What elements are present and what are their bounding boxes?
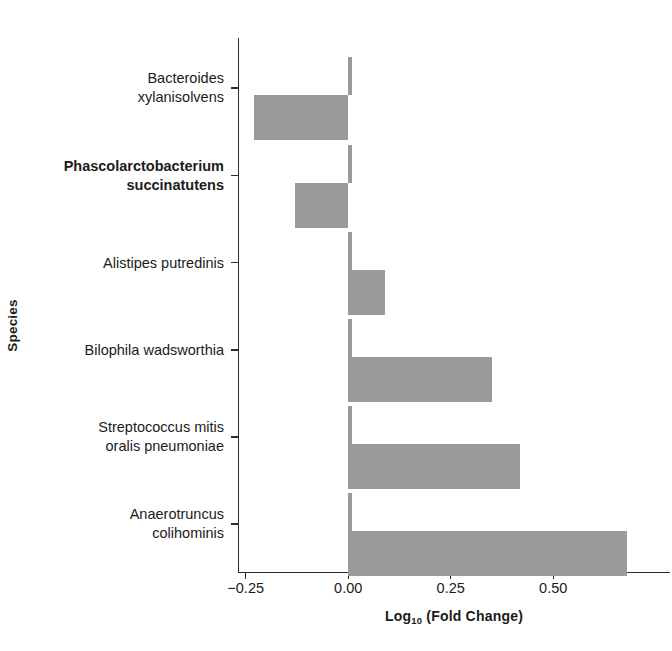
y-axis-tick	[231, 523, 238, 524]
zero-reference-mark	[348, 232, 353, 270]
zero-reference-mark	[348, 406, 353, 444]
bar[interactable]	[348, 270, 385, 315]
bar-chart-figure: Species −0.250.000.250.50Bacteroides xyl…	[0, 0, 672, 651]
zero-reference-mark	[348, 319, 353, 357]
y-axis-tick-label: Anaerotruncus colihominis	[0, 505, 224, 543]
bar[interactable]	[295, 183, 348, 228]
x-axis-title-suffix: (Fold Change)	[422, 608, 523, 624]
zero-reference-mark	[348, 57, 353, 95]
y-axis-tick-label: Phascolarctobacterium succinatutens	[0, 157, 224, 195]
y-axis-tick	[231, 175, 238, 176]
bar[interactable]	[348, 531, 627, 576]
bar[interactable]	[254, 95, 348, 140]
y-axis-tick	[231, 349, 238, 350]
x-axis-tick-label: 0.25	[411, 580, 491, 596]
y-axis-tick-label: Alistipes putredinis	[0, 253, 224, 272]
x-axis-tick	[245, 572, 246, 579]
x-axis-tick-label: 0.00	[308, 580, 388, 596]
x-axis-tick-label: −0.25	[206, 580, 286, 596]
x-axis-tick-label: 0.50	[513, 580, 593, 596]
x-axis-title-subscript: 10	[411, 615, 422, 626]
y-axis-tick	[231, 262, 238, 263]
y-axis-tick-label: Streptococcus mitis oralis pneumoniae	[0, 418, 224, 456]
bar[interactable]	[348, 444, 520, 489]
zero-reference-mark	[348, 145, 353, 183]
y-axis-tick	[231, 87, 238, 88]
y-axis-line	[238, 38, 239, 572]
y-axis-tick-label: Bacteroides xylanisolvens	[0, 69, 224, 107]
zero-reference-mark	[348, 493, 353, 531]
bar[interactable]	[348, 357, 492, 402]
y-axis-tick-label: Bilophila wadsworthia	[0, 341, 224, 360]
x-axis-title: Log10 (Fold Change)	[238, 608, 670, 624]
y-axis-tick	[231, 436, 238, 437]
x-axis-title-prefix: Log	[385, 608, 411, 624]
